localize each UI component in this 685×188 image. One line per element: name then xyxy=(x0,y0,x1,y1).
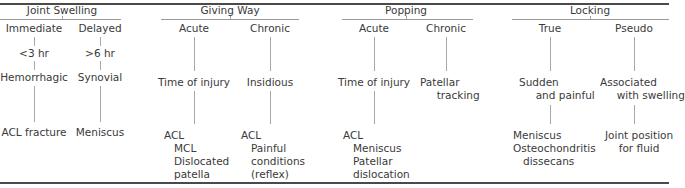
connector xyxy=(550,105,551,124)
step-insidious: Insidious xyxy=(247,76,293,89)
step-meniscus: Meniscus xyxy=(76,126,124,139)
bottom-rule xyxy=(0,182,669,184)
connector xyxy=(270,37,271,71)
step-acl-meniscus-patellar-dislocation: ACL Meniscus Patellar dislocation xyxy=(343,129,410,181)
connector xyxy=(374,37,375,71)
step-time-of-injury: Time of injury xyxy=(158,76,230,89)
step-acl-fracture: ACL fracture xyxy=(1,126,66,139)
connector xyxy=(446,37,447,71)
connector xyxy=(374,91,375,124)
connector xyxy=(270,91,271,124)
branch-chronic: Chronic xyxy=(426,22,466,35)
step-acl-mcl-dislocated-patella: ACL MCL Dislocated patella xyxy=(164,129,229,181)
connector xyxy=(634,37,635,71)
branch-pseudo: Pseudo xyxy=(615,22,653,35)
branch-line xyxy=(512,19,669,20)
branch-true: True xyxy=(539,22,561,35)
branch-acute: Acute xyxy=(179,22,209,35)
step-meniscus-osteochondritis: Meniscus Osteochondritis dissecans xyxy=(513,129,596,168)
branch-line xyxy=(161,19,299,20)
step-associated-with-swelling: Associated with swelling xyxy=(600,76,685,102)
connector xyxy=(634,105,635,124)
branch-line xyxy=(342,19,473,20)
connector xyxy=(550,37,551,71)
top-rule xyxy=(0,3,669,5)
connector xyxy=(34,86,35,122)
branch-delayed: Delayed xyxy=(78,22,121,35)
step-time-of-injury: Time of injury xyxy=(338,76,410,89)
connector xyxy=(100,37,101,46)
connector xyxy=(100,86,101,122)
branch-acute: Acute xyxy=(359,22,389,35)
connector xyxy=(34,61,35,70)
step-under-3hr: <3 hr xyxy=(19,47,49,60)
step-over-6hr: >6 hr xyxy=(85,47,115,60)
branch-line xyxy=(0,19,121,20)
step-joint-position-for-fluid: Joint position for fluid xyxy=(605,129,673,155)
branch-immediate: Immediate xyxy=(6,22,63,35)
step-hemorrhagic: Hemorrhagic xyxy=(0,71,68,84)
connector xyxy=(100,61,101,70)
branch-chronic: Chronic xyxy=(250,22,290,35)
connector xyxy=(34,37,35,46)
step-synovial: Synovial xyxy=(78,71,122,84)
step-sudden-and-painful: Sudden and painful xyxy=(519,76,595,102)
step-patellar-tracking: Patellar tracking xyxy=(420,76,480,102)
connector xyxy=(194,91,195,124)
connector xyxy=(194,37,195,71)
step-acl-painful-conditions: ACL Painful conditions (reflex) xyxy=(241,129,305,181)
